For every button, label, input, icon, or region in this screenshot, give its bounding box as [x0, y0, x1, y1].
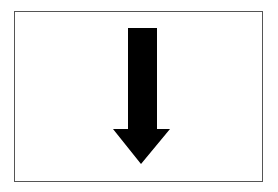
arrow-shape: [113, 28, 170, 164]
arrow-down-icon: [0, 0, 278, 192]
